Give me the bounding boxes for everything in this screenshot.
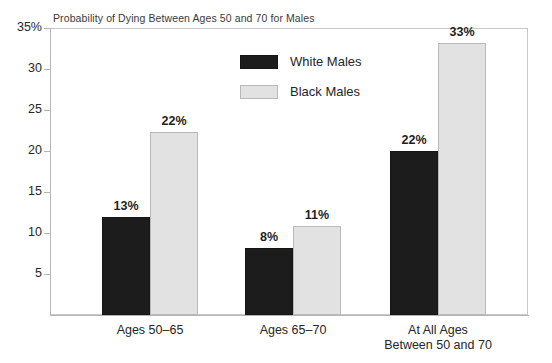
bar-black-males bbox=[438, 43, 486, 315]
bar-white-males bbox=[245, 248, 293, 315]
y-axis-label: 5 bbox=[0, 266, 42, 280]
y-axis-label: 15 bbox=[0, 184, 42, 198]
chart-legend: White Males Black Males bbox=[240, 50, 362, 110]
category-label-line: Ages 65–70 bbox=[260, 323, 327, 337]
legend-item-black-males: Black Males bbox=[240, 80, 362, 103]
bar-white-males bbox=[390, 151, 438, 315]
category-label-line: Ages 50–65 bbox=[117, 323, 184, 337]
white-males-swatch-icon bbox=[240, 55, 278, 69]
legend-label-black-males: Black Males bbox=[290, 84, 360, 99]
y-axis-label: 20 bbox=[0, 143, 42, 157]
bar-value-label: 13% bbox=[94, 199, 158, 213]
x-axis-line bbox=[50, 315, 529, 316]
y-axis-tick bbox=[44, 192, 50, 193]
bar-value-label: 22% bbox=[382, 133, 446, 147]
legend-label-white-males: White Males bbox=[290, 54, 362, 69]
bar-black-males bbox=[150, 132, 198, 315]
y-axis-tick bbox=[44, 28, 50, 29]
y-axis-tick bbox=[44, 69, 50, 70]
y-axis-line bbox=[50, 28, 51, 316]
bar-white-males bbox=[102, 217, 150, 315]
bar-value-label: 22% bbox=[142, 114, 206, 128]
y-axis-tick bbox=[44, 233, 50, 234]
y-axis-label: 10 bbox=[0, 225, 42, 239]
y-axis-label: 30 bbox=[0, 61, 42, 75]
x-axis-category-label: At All AgesBetween 50 and 70 bbox=[348, 323, 528, 353]
y-axis-tick bbox=[44, 274, 50, 275]
y-axis-label: 35% bbox=[0, 20, 42, 34]
category-label-line: Between 50 and 70 bbox=[348, 338, 528, 353]
black-males-swatch-icon bbox=[240, 85, 278, 99]
y-axis-label: 25 bbox=[0, 102, 42, 116]
bar-value-label: 8% bbox=[237, 230, 301, 244]
y-axis-tick bbox=[44, 151, 50, 152]
chart-title: Probability of Dying Between Ages 50 and… bbox=[53, 12, 315, 25]
bar-black-males bbox=[293, 226, 341, 315]
bar-chart: Probability of Dying Between Ages 50 and… bbox=[0, 0, 552, 363]
legend-item-white-males: White Males bbox=[240, 50, 362, 73]
bar-value-label: 11% bbox=[285, 208, 349, 222]
category-label-line: At All Ages bbox=[408, 323, 468, 337]
bar-value-label: 33% bbox=[430, 25, 494, 39]
y-axis-tick bbox=[44, 110, 50, 111]
